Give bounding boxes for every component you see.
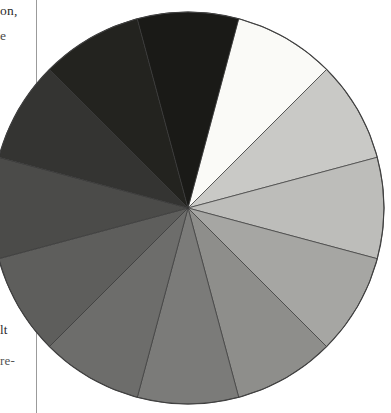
value-wheel-svg — [0, 0, 391, 413]
value-wheel-figure — [0, 0, 391, 413]
book-page: on, e lt re- — [0, 0, 391, 413]
value-wheel-sectors — [0, 12, 384, 404]
